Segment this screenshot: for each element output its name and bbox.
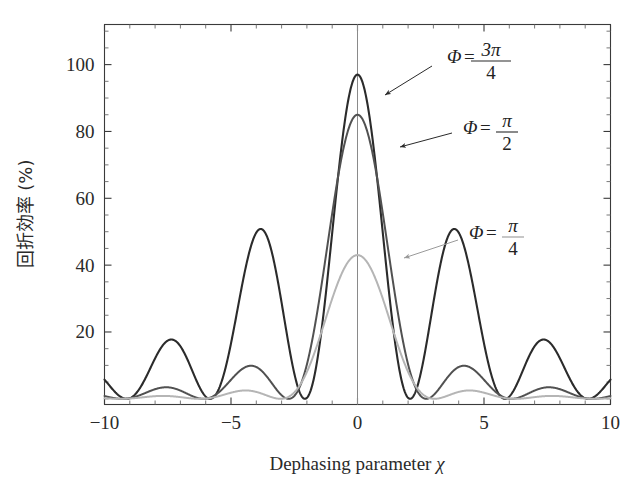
y-axis-title: 回折効率 (%)	[15, 160, 36, 269]
y-tick-label: 20	[76, 321, 95, 342]
x-tick-label: 5	[479, 412, 489, 433]
y-tick-label: 100	[66, 54, 95, 75]
annotation-equals: =	[464, 46, 475, 67]
y-tick-label: 60	[76, 188, 95, 209]
y-axis-title-group: 回折効率 (%)	[15, 160, 36, 269]
annotation-equals: =	[480, 117, 491, 138]
annotation-numerator: π	[508, 215, 518, 236]
x-tick-label: 10	[601, 412, 620, 433]
figure-container: −10−5051020406080100 Dephasing parameter…	[0, 0, 636, 490]
annotation-denominator: 4	[508, 238, 518, 259]
tick-labels-layer: −10−5051020406080100	[66, 54, 620, 432]
annotation-phi-pi-2: Φ=π2	[400, 110, 518, 154]
x-axis-title-text: Dephasing parameter	[269, 453, 432, 474]
x-tick-label: −10	[90, 412, 120, 433]
annotation-leader-line	[385, 66, 432, 95]
annotation-leader-line	[400, 133, 452, 147]
x-axis-title-symbol: χ	[434, 453, 445, 474]
annotation-denominator: 2	[502, 133, 512, 154]
annotation-phi-symbol: Φ	[469, 222, 483, 243]
x-tick-label: −5	[221, 412, 241, 433]
annotation-phi-symbol: Φ	[463, 117, 477, 138]
annotation-leader-line	[404, 240, 458, 258]
diffraction-efficiency-chart: −10−5051020406080100 Dephasing parameter…	[0, 0, 636, 490]
annotation-phi-symbol: Φ	[447, 46, 461, 67]
annotation-phi-3pi-4: Φ=3π4	[385, 39, 511, 95]
x-tick-label: 0	[353, 412, 363, 433]
annotations-layer: Φ=3π4Φ=π2Φ=π4	[385, 39, 524, 259]
annotation-equals: =	[486, 222, 497, 243]
y-tick-label: 40	[76, 255, 95, 276]
annotation-numerator: π	[502, 110, 512, 131]
annotation-numerator: 3π	[480, 39, 501, 60]
x-axis-title: Dephasing parameter χ	[269, 453, 445, 474]
annotation-phi-pi-4: Φ=π4	[404, 215, 524, 259]
x-axis-title-group: Dephasing parameter χ	[269, 453, 445, 474]
annotation-denominator: 4	[486, 62, 496, 83]
y-tick-label: 80	[76, 121, 95, 142]
